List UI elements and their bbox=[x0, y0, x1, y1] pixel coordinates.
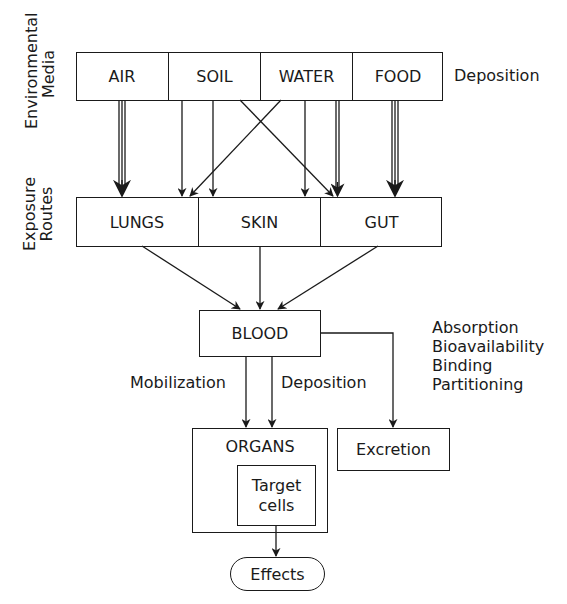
excretion-label: Excretion bbox=[356, 440, 431, 459]
media-air: AIR bbox=[76, 52, 168, 101]
arrow-food-to-gut bbox=[392, 100, 398, 196]
effects-label: Effects bbox=[250, 565, 304, 584]
processes-list: Absorption Bioavailability Binding Parti… bbox=[432, 318, 544, 394]
media-water-label: WATER bbox=[279, 67, 335, 86]
effects-terminal: Effects bbox=[230, 557, 325, 591]
excretion-box: Excretion bbox=[337, 428, 450, 471]
route-lungs: LUNGS bbox=[76, 197, 198, 247]
route-skin: SKIN bbox=[198, 197, 320, 247]
target-cells-line2: cells bbox=[259, 496, 295, 516]
process-partitioning: Partitioning bbox=[432, 375, 544, 394]
process-absorption: Absorption bbox=[432, 318, 544, 337]
media-soil: SOIL bbox=[168, 52, 260, 101]
media-food-label: FOOD bbox=[375, 67, 422, 86]
target-cells-line1: Target bbox=[252, 476, 302, 496]
route-lungs-label: LUNGS bbox=[110, 213, 164, 232]
arrow-soil-to-gut bbox=[240, 100, 333, 196]
arrow-air-to-lungs bbox=[119, 100, 125, 196]
arrow-lungs-to-blood bbox=[142, 246, 240, 309]
environmental-media-label-line1: Environmental bbox=[23, 19, 40, 129]
arrow-water-to-gut-double bbox=[336, 100, 339, 196]
route-gut-label: GUT bbox=[365, 213, 399, 232]
media-soil-label: SOIL bbox=[196, 67, 232, 86]
media-air-label: AIR bbox=[109, 67, 136, 86]
blood-box: BLOOD bbox=[199, 310, 321, 357]
environmental-media-label-line2: Media bbox=[40, 19, 57, 129]
environmental-media-label: Environmental Media bbox=[23, 19, 59, 129]
exposure-routes-label: Exposure Routes bbox=[21, 169, 57, 259]
process-binding: Binding bbox=[432, 356, 544, 375]
arrow-gut-to-blood bbox=[278, 246, 378, 309]
media-food: FOOD bbox=[352, 52, 443, 101]
deposition-top-label: Deposition bbox=[454, 68, 540, 84]
organs-label: ORGANS bbox=[193, 437, 327, 456]
route-gut: GUT bbox=[320, 197, 442, 247]
arrow-water-to-skin bbox=[190, 100, 281, 196]
exposure-routes-label-line2: Routes bbox=[38, 169, 55, 259]
exposure-routes-label-line1: Exposure bbox=[21, 169, 38, 259]
deposition-label: Deposition bbox=[281, 375, 367, 391]
media-water: WATER bbox=[260, 52, 352, 101]
route-skin-label: SKIN bbox=[241, 213, 278, 232]
target-cells-box: Target cells bbox=[237, 465, 316, 526]
process-bioavailability: Bioavailability bbox=[432, 337, 544, 356]
blood-label: BLOOD bbox=[232, 324, 289, 343]
mobilization-label: Mobilization bbox=[130, 375, 226, 391]
